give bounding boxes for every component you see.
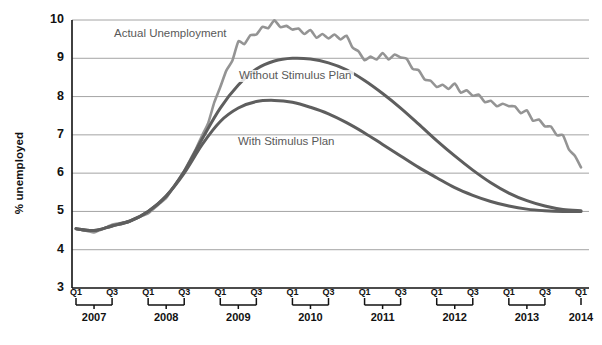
x-year-label: 2008 [142,312,190,323]
x-axis-ticks [76,298,581,309]
axes [72,20,589,288]
x-year-label: 2014 [557,312,602,323]
x-quarter-label: Q3 [317,288,341,297]
x-quarter-label: Q1 [425,288,449,297]
x-year-label: 2009 [214,312,262,323]
x-year-label: 2007 [70,312,118,323]
y-tick-label: 5 [38,204,64,217]
x-quarter-label: Q3 [100,288,124,297]
x-quarter-label: Q3 [389,288,413,297]
series-annotation: Without Stimulus Plan [237,70,354,82]
x-quarter-label: Q1 [208,288,232,297]
y-tick-label: 4 [38,243,64,256]
series-line-actual-unemployment [76,20,581,232]
x-quarter-label: Q1 [64,288,88,297]
x-quarter-label: Q1 [497,288,521,297]
x-quarter-label: Q1 [569,288,593,297]
x-quarter-label: Q3 [244,288,268,297]
y-tick-label: 10 [38,13,64,26]
y-tick-label: 3 [38,281,64,294]
y-tick-label: 7 [38,128,64,141]
x-quarter-label: Q3 [533,288,557,297]
x-quarter-label: Q3 [172,288,196,297]
x-quarter-label: Q1 [136,288,160,297]
x-year-label: 2013 [503,312,551,323]
x-year-label: 2012 [431,312,479,323]
x-year-label: 2010 [286,312,334,323]
y-tick-label: 9 [38,51,64,64]
series-annotation: Actual Unemployment [112,28,229,40]
x-quarter-label: Q1 [353,288,377,297]
x-quarter-label: Q3 [461,288,485,297]
series-annotation: With Stimulus Plan [236,136,337,148]
y-tick-label: 8 [38,90,64,103]
unemployment-chart: % unemployed 345678910 Q1Q3Q1Q3Q1Q3Q1Q3Q… [0,0,602,345]
series-lines [76,20,581,232]
x-quarter-label: Q1 [280,288,304,297]
y-tick-label: 6 [38,166,64,179]
x-year-label: 2011 [359,312,407,323]
